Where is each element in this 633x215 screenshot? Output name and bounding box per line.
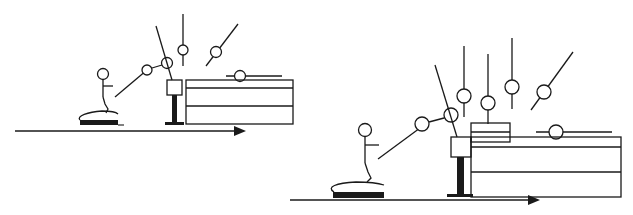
- springboard: [331, 182, 384, 198]
- mat-stack: [186, 80, 293, 124]
- runway-arrow-icon: [15, 126, 246, 136]
- vault-diagram: [0, 0, 633, 215]
- vault-table: [447, 137, 473, 197]
- trajectory: [115, 14, 282, 97]
- trajectory: [378, 38, 612, 159]
- springboard: [79, 111, 124, 125]
- athlete-figure: [359, 124, 380, 183]
- mat-stack: [471, 137, 621, 197]
- vault-table: [165, 80, 184, 125]
- left-panel: [15, 14, 293, 136]
- right-panel: [290, 38, 621, 205]
- athlete-figure: [98, 69, 114, 114]
- raised-block: [471, 123, 510, 142]
